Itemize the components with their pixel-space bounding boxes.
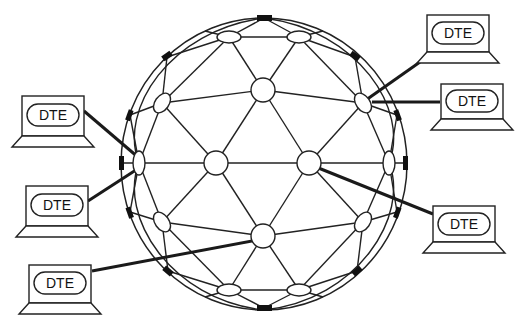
- dte-label: DTE: [39, 107, 67, 123]
- port-bottom: [257, 305, 272, 311]
- node[interactable]: [217, 284, 241, 296]
- node[interactable]: [251, 224, 275, 248]
- dte-terminal-4[interactable]: DTE: [417, 15, 499, 63]
- dte-label: DTE: [46, 275, 74, 291]
- port-wnw: [125, 109, 133, 121]
- node[interactable]: [217, 31, 241, 43]
- link-dte-2: [88, 168, 139, 201]
- dte-label: DTE: [43, 197, 71, 213]
- node[interactable]: [251, 78, 275, 102]
- dte-label: DTE: [444, 25, 472, 41]
- node[interactable]: [133, 151, 145, 175]
- mesh-edges: [122, 18, 405, 308]
- port-right: [403, 156, 408, 170]
- network-diagram: DTE DTE DTE DTE DTE DTE: [0, 0, 526, 328]
- link-dte-3: [92, 240, 257, 271]
- dte-terminal-1[interactable]: DTE: [12, 96, 94, 147]
- node[interactable]: [297, 151, 321, 175]
- port-ene: [393, 109, 401, 121]
- node[interactable]: [383, 151, 395, 175]
- port-left: [119, 156, 124, 170]
- node[interactable]: [287, 284, 311, 296]
- network-sphere: [121, 18, 407, 310]
- dte-terminal-3[interactable]: DTE: [19, 265, 101, 314]
- dte-terminal-6[interactable]: DTE: [423, 206, 505, 253]
- port-se: [351, 265, 363, 276]
- dte-label: DTE: [458, 93, 486, 109]
- node[interactable]: [287, 31, 311, 43]
- dte-label: DTE: [450, 216, 478, 232]
- dte-terminal-2[interactable]: DTE: [16, 186, 98, 237]
- node[interactable]: [204, 151, 228, 175]
- port-top: [257, 15, 272, 21]
- dte-terminal-5[interactable]: DTE: [431, 84, 513, 130]
